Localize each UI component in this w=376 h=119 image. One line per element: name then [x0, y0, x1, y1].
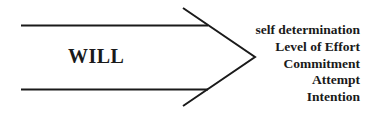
arrow-head	[183, 8, 255, 106]
list-item: self determination	[255, 22, 360, 39]
center-label: WILL	[68, 45, 124, 68]
list-item: Commitment	[255, 56, 360, 73]
attribute-list: self determination Level of Effort Commi…	[255, 22, 360, 106]
list-item: Level of Effort	[255, 39, 360, 56]
list-item: Intention	[255, 89, 360, 106]
list-item: Attempt	[255, 72, 360, 89]
will-arrow-diagram: WILL self determination Level of Effort …	[0, 0, 376, 119]
